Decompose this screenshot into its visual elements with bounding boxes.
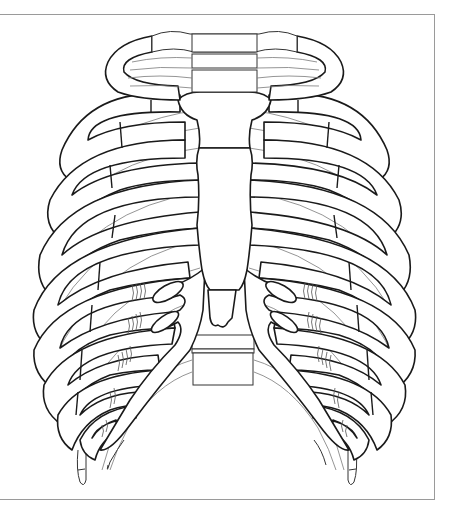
vertebra xyxy=(193,353,253,385)
rib-cage-illustration xyxy=(0,0,449,521)
xiphoid-process xyxy=(208,290,236,327)
right-ribs xyxy=(249,94,416,460)
vertebra-t1 xyxy=(192,34,257,52)
vertebra-t2 xyxy=(192,54,257,68)
manubrium xyxy=(178,92,271,148)
vertebral-disc xyxy=(192,349,254,353)
floating-rib-tips xyxy=(77,440,356,485)
vertebra xyxy=(192,335,254,349)
sternum-body xyxy=(197,148,253,290)
left-ribs xyxy=(33,94,200,460)
vertebra-t3 xyxy=(192,70,257,92)
